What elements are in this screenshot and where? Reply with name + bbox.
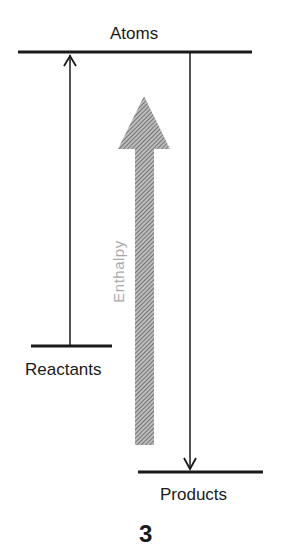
enthalpy-axis-label: Enthalpy (110, 232, 127, 312)
enthalpy-diagram (0, 0, 284, 552)
products-label: Products (160, 485, 227, 505)
figure-number: 3 (139, 520, 152, 548)
atoms-label: Atoms (110, 24, 158, 44)
reactants-label: Reactants (25, 360, 102, 380)
